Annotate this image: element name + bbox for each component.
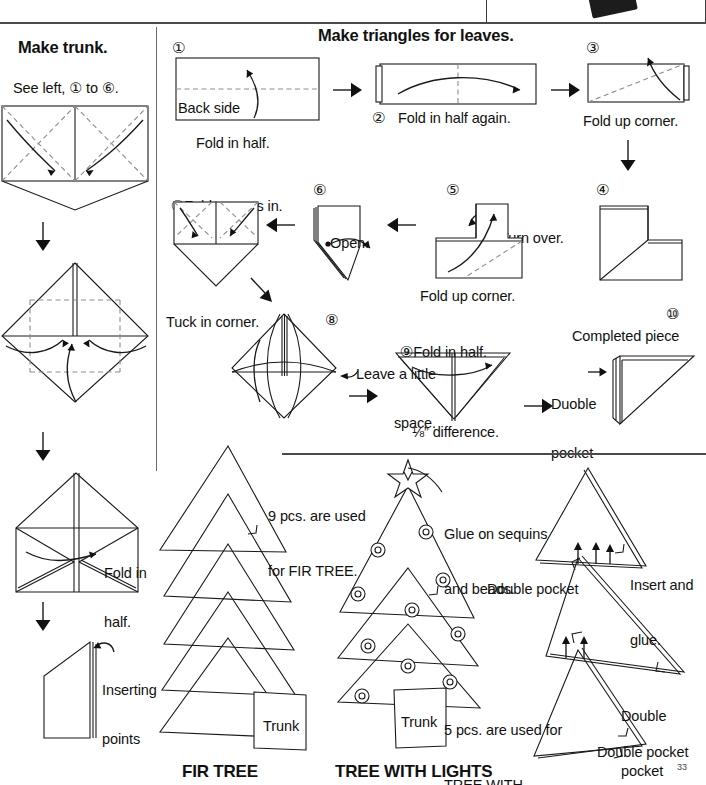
arrow-step2-to-step3	[551, 80, 581, 100]
tree-with-lights-name: TREE WITH LIGHTS	[335, 762, 492, 782]
fir-tree-trunk-label: Trunk	[263, 718, 299, 734]
trunk-fold-in-half-label: Fold in half.	[104, 533, 147, 647]
column-divider	[156, 27, 157, 471]
assembly-double-pocket-mid: Double pocket	[621, 671, 666, 785]
section-rule	[282, 453, 706, 455]
step-10-note-line1: Duoble	[551, 396, 596, 412]
step-6-caption: Open.	[330, 235, 369, 251]
page-number: 33	[677, 762, 687, 772]
step-1-caption: Fold in half.	[196, 135, 270, 151]
step-10-caption: Completed piece	[572, 328, 679, 344]
leaf-step-9-diagram	[388, 345, 518, 425]
header-rule	[0, 22, 706, 24]
trunk-arrow-2	[32, 432, 54, 462]
assembly-double-pocket-bottom: Double pocket	[597, 744, 688, 760]
inserting-points-line2: points	[102, 731, 157, 747]
trunk-arrow-3	[32, 602, 54, 632]
arrow-step8-to-step9	[349, 386, 379, 406]
trunk-diagram-2	[0, 260, 156, 406]
leaf-step-4-diagram	[586, 196, 696, 286]
step-1-number: ①	[172, 40, 185, 57]
fir-tree-name: FIR TREE	[182, 762, 258, 782]
step-3-number: ③	[586, 40, 599, 57]
arrow-step3-to-step4	[617, 140, 639, 172]
trunk-diagram-1	[0, 103, 156, 213]
step-10-note: Duoble pocket	[551, 364, 596, 478]
fold-in-half-line1: Fold in	[104, 565, 147, 581]
tree-lights-trunk-label: Trunk	[401, 714, 437, 730]
see-left-note: See left, ① to ⑥.	[13, 80, 119, 96]
inserting-points-line1: Inserting	[102, 682, 157, 698]
step-9-note: ⅛” difference.	[412, 424, 499, 440]
assembly-insert-arrows-bottom	[558, 634, 598, 660]
arrow-step1-to-step2	[333, 80, 363, 100]
page-title-right: Make triangles for leaves.	[318, 26, 514, 45]
step-3-caption: Fold up corner.	[583, 113, 678, 129]
step-1-back-side-label: Back side	[178, 100, 240, 116]
step-2-number: ②	[372, 110, 385, 127]
step-5-caption: Fold up corner.	[420, 288, 515, 304]
insert-and-glue-note: Insert and glue.	[630, 540, 694, 667]
arrow-step7-to-step8	[248, 276, 278, 306]
leaf-step-8-diagram	[224, 310, 344, 422]
fold-in-half-line2: half.	[104, 614, 147, 630]
arrow-step5-to-step6	[386, 215, 416, 235]
insert-line1: Insert and	[630, 576, 694, 594]
double-pocket-pointer-icon	[588, 366, 608, 378]
leaf-step-3-diagram	[584, 58, 694, 113]
dp-mid-line2: pocket	[621, 762, 666, 780]
star-pointer-line	[408, 462, 448, 496]
leave-space-pointer-icon	[338, 368, 360, 382]
inserting-points-label: Inserting points	[102, 650, 157, 764]
insert-line2: glue.	[630, 631, 694, 649]
assembly-insert-arrows-top	[570, 540, 618, 566]
step-10-number: ⑩	[666, 306, 679, 323]
dp-mid-line1: Double	[621, 707, 666, 725]
leaf-step-5-diagram	[424, 196, 534, 286]
trunk-arrow-1	[32, 222, 54, 252]
leaf-step-2-diagram	[374, 60, 544, 110]
page-title-left: Make trunk.	[18, 38, 108, 57]
step-2-caption: Fold in half again.	[398, 110, 511, 126]
leaf-step-10-diagram	[602, 348, 702, 428]
arrow-step9-to-step10	[524, 396, 554, 416]
arrow-step6-to-step7	[265, 215, 295, 235]
